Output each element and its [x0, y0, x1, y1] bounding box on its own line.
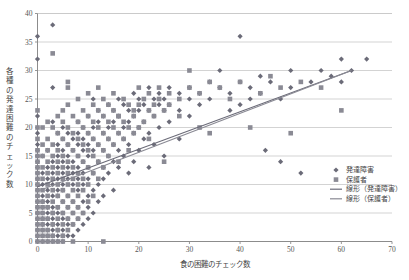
data-point: [50, 188, 55, 193]
data-point: [55, 114, 60, 119]
data-point: [131, 131, 136, 136]
data-point: [76, 216, 81, 221]
data-point: [131, 114, 136, 119]
data-point: [81, 108, 86, 113]
data-point: [96, 177, 101, 182]
y-axis-title-char: 困: [6, 114, 13, 123]
data-point: [40, 199, 45, 204]
data-point: [81, 125, 86, 130]
y-tick-label: 25: [25, 95, 33, 104]
y-axis-title-char: 数: [6, 179, 14, 189]
data-point: [35, 159, 40, 164]
y-axis-title-char: の: [6, 86, 13, 95]
data-point: [101, 114, 106, 119]
data-point: [45, 194, 50, 199]
chart-canvas: 0510152025303540 010203040506070 食の困難のチェ…: [0, 0, 409, 280]
data-point: [71, 114, 76, 119]
data-point: [61, 239, 66, 244]
data-point: [167, 91, 172, 96]
data-point: [40, 228, 45, 233]
y-tick-label: 10: [25, 180, 33, 189]
data-point: [116, 131, 121, 136]
data-point: [136, 85, 141, 90]
data-point: [207, 131, 212, 136]
y-axis-title-char: 達: [6, 104, 14, 114]
data-point: [81, 142, 86, 147]
data-point: [71, 148, 76, 153]
data-point: [96, 85, 101, 90]
data-point: [35, 177, 40, 182]
data-point: [45, 234, 50, 239]
data-point: [50, 51, 55, 56]
x-tick-label: 50: [287, 245, 295, 254]
data-point: [35, 239, 40, 244]
data-point: [86, 91, 91, 96]
data-point: [278, 85, 283, 90]
data-point: [111, 142, 116, 147]
legend-label: 発達障害: [346, 165, 374, 174]
data-point: [61, 120, 66, 125]
x-axis-title: 食の困難のチェック数: [180, 259, 251, 269]
data-point: [91, 171, 96, 176]
data-point: [45, 120, 50, 125]
y-tick-label: 20: [25, 123, 33, 132]
data-point: [66, 228, 71, 233]
data-point: [81, 188, 86, 193]
y-axis-title-char: 難: [6, 122, 14, 132]
data-point: [111, 108, 116, 113]
y-axis-title-char: ク: [6, 170, 13, 179]
data-point: [50, 222, 55, 227]
data-point: [35, 211, 40, 216]
data-point: [35, 154, 40, 159]
data-point: [40, 216, 45, 221]
data-point: [136, 102, 141, 107]
data-point: [96, 142, 101, 147]
data-point: [40, 222, 45, 227]
data-point: [96, 108, 101, 113]
data-point: [86, 148, 91, 153]
data-point: [71, 165, 76, 170]
data-point: [86, 199, 91, 204]
data-point: [50, 125, 55, 130]
y-axis-title-char: の: [6, 133, 13, 142]
data-point: [299, 80, 304, 85]
legend-label: 保護者: [346, 175, 367, 184]
data-point: [116, 114, 121, 119]
scatter-chart: 0510152025303540 010203040506070 食の困難のチェ…: [0, 0, 409, 280]
y-tick-label: 5: [29, 209, 33, 218]
data-point: [66, 125, 71, 130]
data-point: [45, 216, 50, 221]
data-point: [76, 182, 81, 187]
data-point: [61, 108, 66, 113]
data-point: [228, 97, 233, 102]
y-axis-title-char: ッ: [6, 161, 13, 170]
legend-label: 線形（保護者）: [346, 194, 395, 203]
data-point: [121, 97, 126, 102]
y-axis-title-char: チ: [6, 142, 13, 151]
data-point: [66, 102, 71, 107]
data-point: [238, 80, 243, 85]
data-point: [319, 85, 324, 90]
data-point: [55, 239, 60, 244]
data-point: [66, 216, 71, 221]
data-point: [91, 137, 96, 142]
data-point: [66, 194, 71, 199]
data-point: [71, 131, 76, 136]
y-axis-title-char: ェ: [6, 152, 13, 161]
data-point: [61, 154, 66, 159]
y-tick-label: 0: [29, 237, 33, 246]
data-point: [35, 199, 40, 204]
data-point: [40, 125, 45, 130]
data-point: [71, 239, 76, 244]
legend-label: 線形（発達障害）: [346, 184, 402, 193]
data-point: [50, 165, 55, 170]
data-point: [35, 125, 40, 130]
data-point: [268, 74, 273, 79]
data-point: [35, 234, 40, 239]
data-point: [40, 177, 45, 182]
data-point: [66, 159, 71, 164]
x-tick-label: 0: [36, 245, 40, 254]
data-point: [40, 142, 45, 147]
legend-square-icon: [334, 177, 339, 182]
y-tick-label: 15: [25, 152, 33, 161]
